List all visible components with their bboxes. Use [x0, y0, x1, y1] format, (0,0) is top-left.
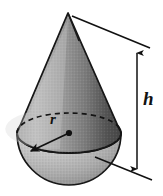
top-leader-line — [72, 16, 150, 48]
figure-canvas — [0, 0, 163, 196]
cone-hemisphere-figure: h r — [0, 0, 163, 196]
radius-origin-dot — [66, 130, 72, 136]
cone-solid — [5, 13, 121, 153]
radius-label: r — [50, 112, 56, 127]
height-label: h — [143, 89, 154, 108]
